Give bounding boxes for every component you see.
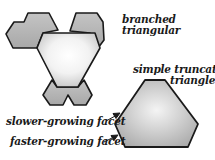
branched-triangular-label: branched triangular (122, 14, 180, 36)
branched-center (37, 33, 100, 87)
slower-growing-facet-label: slower-growing facet (6, 116, 125, 127)
simple-truncated-label-line2: triangle (170, 75, 215, 86)
simple-truncated-triangle (115, 80, 198, 147)
branched-label-line2: triangular (122, 25, 180, 36)
branched-triangular-crystal (6, 13, 104, 105)
faster-growing-facet-label: faster-growing facet (10, 136, 125, 147)
